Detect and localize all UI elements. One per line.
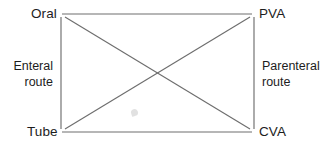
side-label-parenteral-line2: route (262, 74, 320, 90)
side-label-enteral-line1: Enteral (8, 58, 53, 74)
diagram-canvas: Oral PVA Tube CVA Enteral route Parenter… (0, 0, 335, 147)
node-label-pva: PVA (259, 7, 285, 21)
side-label-parenteral-route: Parenteral route (262, 58, 320, 90)
side-label-enteral-route: Enteral route (8, 58, 53, 90)
side-label-parenteral-line1: Parenteral (262, 58, 320, 74)
node-label-tube: Tube (27, 125, 58, 139)
node-label-oral: Oral (31, 7, 57, 21)
node-label-cva: CVA (259, 125, 286, 139)
side-label-enteral-line2: route (8, 74, 53, 90)
